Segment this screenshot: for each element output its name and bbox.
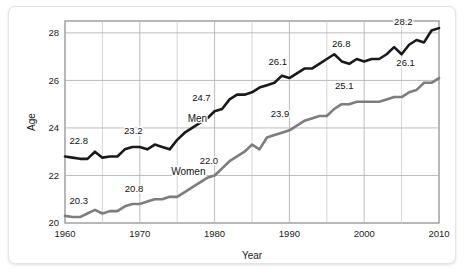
series-label-women: Women bbox=[171, 166, 205, 177]
point-label-men-2010: 28.2 bbox=[394, 16, 413, 27]
x-axis-tick-label: 2010 bbox=[428, 228, 449, 239]
line-chart: 2022242628196019701980199020002010AgeYea… bbox=[9, 7, 457, 265]
point-label-women-1980: 22.0 bbox=[200, 155, 219, 166]
x-axis-tick-label: 1990 bbox=[279, 228, 300, 239]
chart-card: 2022242628196019701980199020002010AgeYea… bbox=[8, 6, 456, 264]
y-axis-tick-label: 26 bbox=[48, 75, 59, 86]
y-axis-tick-label: 20 bbox=[48, 217, 59, 228]
y-axis-tick-label: 28 bbox=[48, 27, 59, 38]
x-axis-tick-label: 1960 bbox=[54, 228, 75, 239]
y-axis-tick-label: 24 bbox=[48, 122, 59, 133]
x-axis-tick-label: 2000 bbox=[354, 228, 375, 239]
point-label-women-1999: 25.1 bbox=[335, 80, 354, 91]
point-label-men-1990: 26.1 bbox=[268, 56, 287, 67]
y-axis-tick-label: 22 bbox=[48, 170, 59, 181]
point-label-men-1960: 22.8 bbox=[69, 135, 88, 146]
point-label-women-1969: 20.8 bbox=[125, 183, 144, 194]
point-label-men-1980: 24.7 bbox=[192, 92, 211, 103]
point-label-men-1969: 23.2 bbox=[124, 125, 143, 136]
x-axis-tick-label: 1970 bbox=[129, 228, 150, 239]
y-axis-title: Age bbox=[26, 113, 37, 131]
point-label-women-2010: 26.1 bbox=[396, 57, 415, 68]
point-label-women-1960: 20.3 bbox=[69, 195, 88, 206]
x-axis-tick-label: 1980 bbox=[204, 228, 225, 239]
point-label-women-1990: 23.9 bbox=[271, 108, 290, 119]
point-label-men-1997: 26.8 bbox=[332, 38, 351, 49]
series-label-men: Men bbox=[188, 113, 207, 124]
x-axis-title: Year bbox=[242, 250, 263, 261]
